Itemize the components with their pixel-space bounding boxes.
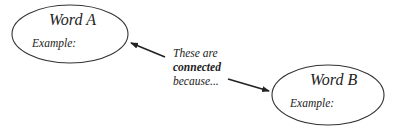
- connector-line-2: connected: [173, 60, 221, 74]
- node-b-example-label: Example:: [290, 98, 334, 110]
- concept-diagram: Word A Example: These are connected beca…: [0, 0, 396, 132]
- arrow-to-word-a: [131, 43, 165, 57]
- connector-line-1: These are: [173, 46, 218, 60]
- node-b-title: Word B: [310, 72, 357, 88]
- node-a-title: Word A: [49, 12, 96, 28]
- connector-line-3: because...: [173, 74, 219, 88]
- node-a-example-label: Example:: [32, 38, 76, 50]
- arrow-to-word-b: [228, 79, 269, 91]
